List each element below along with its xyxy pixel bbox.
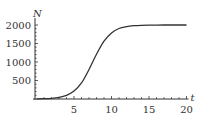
y-axis-ticks: 500100015002000 <box>6 20 38 96</box>
y-tick-label: 500 <box>12 75 31 86</box>
x-tick-label: 20 <box>180 104 193 115</box>
axes: 5101520 500100015002000 t N <box>6 8 196 115</box>
y-tick-label: 1500 <box>6 38 31 49</box>
y-tick-label: 1000 <box>6 57 31 68</box>
data-series-line <box>37 25 187 99</box>
x-tick-label: 5 <box>71 104 77 115</box>
y-axis-label: N <box>32 8 43 19</box>
logistic-growth-chart: 5101520 500100015002000 t N <box>0 0 200 117</box>
x-tick-label: 10 <box>105 104 118 115</box>
x-tick-label: 15 <box>143 104 156 115</box>
y-tick-label: 2000 <box>6 20 31 31</box>
x-axis-label: t <box>191 92 196 103</box>
